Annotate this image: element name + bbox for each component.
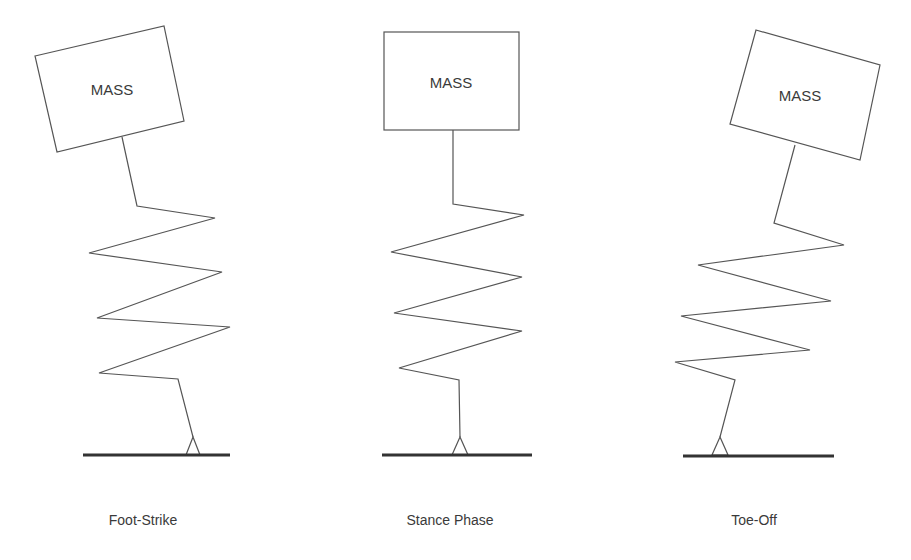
- caption-foot-strike: Foot-Strike: [109, 512, 178, 528]
- mass-label: MASS: [430, 74, 473, 91]
- spring: [391, 130, 524, 437]
- caption-stance-phase: Stance Phase: [406, 512, 493, 528]
- spring: [89, 137, 230, 437]
- foot-pivot: [452, 437, 468, 455]
- panel-foot-strike: MASS Foot-Strike: [35, 26, 230, 528]
- mass-label: MASS: [779, 87, 822, 104]
- panel-stance-phase: MASS Stance Phase: [382, 32, 532, 528]
- spring-mass-diagram: MASS Foot-Strike MASS Stance Phase MASS …: [0, 0, 911, 560]
- mass-label: MASS: [91, 81, 134, 98]
- foot-pivot: [186, 437, 200, 455]
- spring: [675, 145, 844, 437]
- caption-toe-off: Toe-Off: [731, 512, 777, 528]
- foot-pivot: [712, 437, 728, 455]
- panel-toe-off: MASS Toe-Off: [675, 30, 880, 528]
